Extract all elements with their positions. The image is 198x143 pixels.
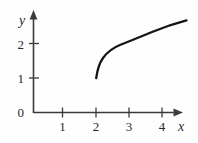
x-tick-label-1: 1 [59, 119, 66, 134]
x-axis-arrowhead-icon [174, 109, 184, 117]
y-tick-label-2: 2 [18, 37, 25, 52]
x-axis-label: x [177, 119, 185, 134]
function-curve [96, 20, 186, 78]
origin-label: 0 [18, 105, 25, 120]
x-tick-label-2: 2 [93, 119, 100, 134]
y-tick-label-1: 1 [18, 71, 25, 86]
graph-figure: 1 2 3 4 1 2 0 y x [0, 0, 198, 143]
y-axis-arrowhead-icon [30, 10, 38, 20]
x-tick-label-4: 4 [159, 119, 166, 134]
y-axis-label: y [17, 13, 26, 28]
x-tick-label-3: 3 [126, 119, 133, 134]
plot-canvas: 1 2 3 4 1 2 0 y x [0, 0, 198, 143]
